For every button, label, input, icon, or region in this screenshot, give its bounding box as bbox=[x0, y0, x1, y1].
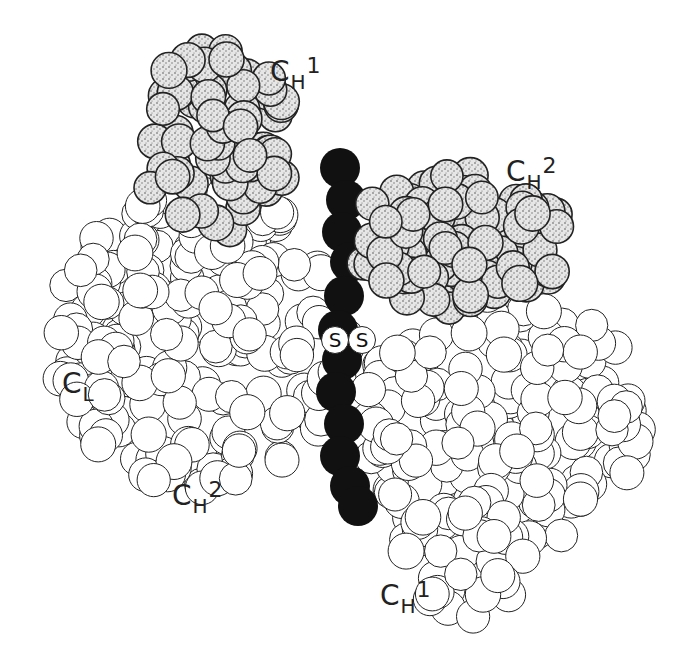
atom-sphere bbox=[442, 427, 474, 459]
label-superscript: 1 bbox=[417, 577, 431, 602]
label-subscript: H bbox=[193, 494, 208, 518]
atom-sphere bbox=[233, 139, 266, 172]
atom-sphere bbox=[243, 257, 277, 291]
domain-label-ch1-bottom: CH1 bbox=[380, 582, 431, 610]
atom-sphere bbox=[452, 247, 487, 282]
atom-sphere bbox=[233, 318, 266, 351]
atom-sphere bbox=[500, 434, 535, 469]
domain-label-ch1-top: CH1 bbox=[270, 58, 321, 86]
atom-sphere bbox=[388, 533, 424, 569]
atom-sphere bbox=[405, 500, 441, 536]
chain-sphere bbox=[324, 276, 364, 316]
label-main: C bbox=[380, 579, 400, 612]
atom-sphere bbox=[379, 478, 412, 511]
atom-sphere bbox=[64, 254, 97, 287]
label-superscript: 1 bbox=[307, 53, 321, 78]
atom-sphere bbox=[563, 482, 597, 516]
atom-sphere bbox=[380, 335, 416, 371]
atom-sphere bbox=[610, 456, 644, 490]
atom-sphere bbox=[81, 427, 116, 462]
atom-sphere bbox=[165, 198, 200, 233]
atom-sphere bbox=[369, 263, 404, 298]
atom-sphere bbox=[108, 345, 141, 378]
disulfide-label-right: S bbox=[348, 326, 376, 354]
label-superscript: 2 bbox=[209, 477, 223, 502]
atom-sphere bbox=[563, 335, 597, 369]
label-subscript: H bbox=[291, 70, 306, 94]
label-main: C bbox=[270, 55, 290, 88]
atom-sphere bbox=[502, 266, 538, 302]
atom-sphere bbox=[278, 248, 311, 281]
atom-sphere bbox=[445, 558, 477, 590]
atom-sphere bbox=[414, 336, 447, 369]
atom-sphere bbox=[84, 284, 119, 319]
atom-sphere bbox=[117, 235, 153, 271]
label-superscript: 2 bbox=[543, 153, 557, 178]
label-main: C bbox=[62, 367, 82, 400]
label-subscript: H bbox=[527, 170, 542, 194]
atom-sphere bbox=[477, 520, 511, 554]
molecule-diagram bbox=[0, 0, 697, 660]
atom-sphere bbox=[222, 434, 255, 467]
atom-sphere bbox=[481, 559, 515, 593]
label-subscript: L bbox=[83, 382, 94, 406]
atom-sphere bbox=[408, 255, 441, 288]
atom-sphere bbox=[137, 464, 170, 497]
label-main: C bbox=[172, 479, 192, 512]
atom-sphere bbox=[151, 359, 185, 393]
atom-sphere bbox=[380, 423, 412, 455]
atom-sphere bbox=[151, 318, 183, 350]
atom-sphere bbox=[370, 206, 402, 238]
label-main: C bbox=[506, 155, 526, 188]
atom-sphere bbox=[155, 160, 189, 194]
disulfide-label-left: S bbox=[321, 326, 349, 354]
atom-sphere bbox=[44, 316, 78, 350]
atom-sphere bbox=[209, 42, 244, 77]
atom-sphere bbox=[131, 417, 166, 452]
atom-sphere bbox=[535, 254, 569, 288]
chain-sphere bbox=[338, 486, 378, 526]
atom-sphere bbox=[532, 334, 564, 366]
atom-sphere bbox=[270, 396, 305, 431]
domain-label-ch2-bottom: CH2 bbox=[172, 482, 223, 510]
atom-sphere bbox=[598, 400, 631, 433]
atom-sphere bbox=[486, 337, 521, 372]
atom-sphere bbox=[265, 443, 299, 477]
atom-sphere bbox=[151, 53, 187, 89]
atom-sphere bbox=[230, 395, 265, 430]
atom-sphere bbox=[545, 519, 578, 552]
label-subscript: H bbox=[401, 594, 416, 618]
atom-sphere bbox=[520, 464, 554, 498]
atom-sphere bbox=[123, 273, 158, 308]
atom-sphere bbox=[448, 496, 482, 530]
atom-sphere bbox=[199, 292, 232, 325]
atom-sphere bbox=[466, 181, 498, 213]
atom-sphere bbox=[515, 196, 550, 231]
domain-label-cl: CL bbox=[62, 370, 94, 398]
atom-sphere bbox=[444, 372, 478, 406]
domain-label-ch2-top: CH2 bbox=[506, 158, 557, 186]
atom-sphere bbox=[548, 380, 582, 414]
atom-sphere bbox=[351, 373, 385, 407]
atom-sphere bbox=[428, 187, 462, 221]
atom-sphere bbox=[147, 93, 180, 126]
atom-sphere bbox=[280, 338, 313, 371]
